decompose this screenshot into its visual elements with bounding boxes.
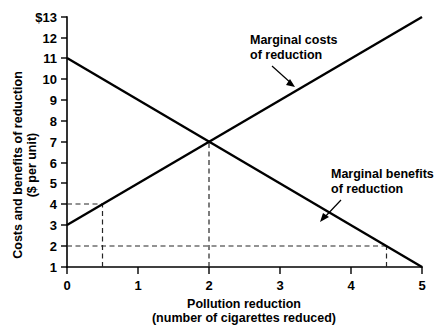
y-axis-title-line2: ($ per unit) — [25, 133, 39, 198]
annotation-marginal-benefits-line2: of reduction — [331, 182, 403, 196]
annotation-marginal-costs: Marginal costs of reduction — [250, 33, 338, 87]
marginal-cost-benefit-chart: Costs and benefits of reduction ($ per u… — [0, 0, 436, 326]
chart-figure: Costs and benefits of reduction ($ per u… — [0, 0, 436, 326]
y-tick-label-11: 11 — [43, 51, 57, 66]
y-axis-ticks — [61, 17, 67, 267]
x-axis-title: Pollution reduction (number of cigarette… — [152, 297, 336, 325]
y-tick-label-10: 10 — [43, 72, 57, 87]
x-axis-ticks — [67, 267, 422, 274]
annotation-marginal-costs-line2: of reduction — [250, 48, 322, 62]
x-tick-label-1: 1 — [134, 278, 141, 293]
x-tick-label-5: 5 — [418, 278, 425, 293]
y-tick-label-9: 9 — [50, 93, 57, 108]
x-tick-label-0: 0 — [63, 278, 70, 293]
annotation-marginal-costs-line1: Marginal costs — [250, 33, 338, 47]
y-tick-label-5: 5 — [50, 176, 57, 191]
x-tick-label-4: 4 — [347, 278, 355, 293]
y-axis-title-line1: Costs and benefits of reduction — [11, 71, 25, 259]
x-axis-title-line1: Pollution reduction — [187, 297, 301, 311]
y-tick-label-7: 7 — [50, 135, 57, 150]
y-tick-label-8: 8 — [50, 114, 57, 129]
y-tick-label-1: 1 — [50, 260, 57, 275]
y-tick-label-2: 2 — [50, 239, 57, 254]
annotation-marginal-benefits-line1: Marginal benefits — [331, 167, 434, 181]
x-tick-label-2: 2 — [205, 278, 212, 293]
x-tick-label-3: 3 — [276, 278, 283, 293]
y-tick-label-3: 3 — [50, 218, 57, 233]
y-tick-label-6: 6 — [50, 156, 57, 171]
series-line-marginal-benefits — [67, 58, 422, 267]
guide-lines — [67, 142, 387, 267]
y-axis-title: Costs and benefits of reduction ($ per u… — [11, 71, 39, 259]
y-tick-label-13: $13 — [35, 10, 57, 25]
x-axis-tick-labels: 0 1 2 3 4 5 — [63, 278, 425, 293]
y-tick-label-4: 4 — [50, 197, 58, 212]
x-axis-title-line2: (number of cigarettes reduced) — [152, 311, 336, 325]
y-tick-label-12: 12 — [43, 31, 57, 46]
annotation-marginal-benefits: Marginal benefits of reduction — [320, 167, 434, 222]
